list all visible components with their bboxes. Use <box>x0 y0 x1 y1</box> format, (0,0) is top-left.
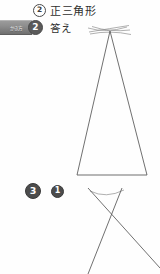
construction-arc-cross <box>90 190 124 195</box>
construction-line-descending-right <box>88 188 160 268</box>
scanned-textbook-page: 2 正三角形 かき方 2 答え 3 1 <box>0 0 160 274</box>
crossed-lines-figure <box>0 0 160 274</box>
construction-line-descending-left <box>88 188 122 274</box>
answer-number-marker: 2 <box>28 20 43 35</box>
crossed-lines-svg <box>0 0 160 274</box>
